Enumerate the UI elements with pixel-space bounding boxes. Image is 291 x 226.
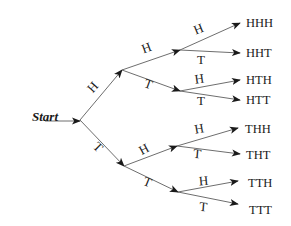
- outcome-hth: HTH: [246, 73, 272, 87]
- edge-th-to-thh: [177, 128, 238, 146]
- branch-label-h: H: [194, 70, 205, 86]
- outcome-labels: HHHHHTHTHHTTTHHTHTTTHTTT: [245, 16, 273, 217]
- branch-label-h: H: [136, 140, 151, 158]
- branch-label-h: H: [191, 20, 205, 37]
- edge-t-to-th: [124, 146, 177, 166]
- edge-ht-to-htt: [180, 91, 240, 100]
- branch-label-t: T: [141, 173, 154, 190]
- branch-label-h: H: [198, 173, 209, 189]
- branch-labels: HTHTHTHTHTHTHT: [84, 20, 209, 214]
- branch-label-t: T: [199, 199, 208, 215]
- coin-toss-tree-diagram: HTHTHTHTHTHTHT HHHHHTHTHHTTTHHTHTTTHTTT …: [0, 0, 291, 226]
- outcome-tth: TTH: [248, 176, 272, 190]
- edge-hh-to-hhh: [180, 23, 240, 50]
- branch-label-t: T: [197, 52, 205, 67]
- start-label: Start: [32, 109, 58, 124]
- outcome-hht: HHT: [246, 46, 272, 60]
- branch-label-t: T: [193, 146, 202, 162]
- outcome-tht: THT: [246, 148, 271, 162]
- edge-tt-to-ttt: [178, 192, 238, 204]
- branch-label-t: T: [197, 93, 205, 108]
- outcome-htt: HTT: [246, 93, 271, 107]
- edge-hh-to-hht: [180, 50, 240, 53]
- edge-ht-to-hth: [180, 80, 240, 91]
- branch-label-h: H: [139, 39, 153, 56]
- outcome-ttt: TTT: [249, 203, 272, 217]
- branch-label-h: H: [193, 120, 205, 136]
- outcome-hhh: HHH: [246, 16, 273, 30]
- edge-root-to-h: [80, 70, 122, 120]
- branch-label-t: T: [90, 139, 106, 155]
- outcome-thh: THH: [245, 122, 271, 136]
- branch-label-h: H: [84, 78, 101, 95]
- edge-th-to-tht: [177, 146, 240, 154]
